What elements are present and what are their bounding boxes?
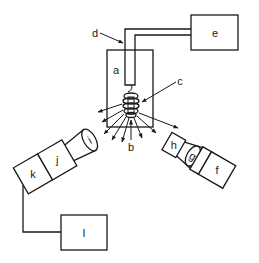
label-a: a [113, 64, 120, 76]
label-k: k [30, 168, 36, 180]
right-arm: h g f [160, 130, 235, 189]
label-b: b [128, 141, 134, 153]
box-e: e [191, 15, 238, 50]
label-j: j [55, 154, 58, 166]
label-d: d [92, 27, 98, 39]
label-e: e [212, 27, 218, 39]
left-arm: k j i [13, 125, 102, 194]
box-l: l [61, 215, 107, 250]
label-c: c [177, 75, 183, 87]
apparatus-diagram: e a d c b [0, 0, 259, 263]
label-l: l [83, 227, 85, 239]
label-h: h [171, 139, 177, 151]
